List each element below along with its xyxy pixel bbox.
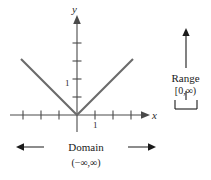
figure-container: y x 1 1 Range [0,∞) Domain (−∞,∞) [0, 0, 211, 180]
range-annotation-arrow [166, 28, 206, 110]
x-axis-label: x [152, 110, 157, 121]
coordinate-plot [0, 0, 160, 140]
x-tick-label-1: 1 [93, 121, 98, 130]
domain-interval: (−∞,∞) [34, 157, 138, 168]
domain-label: Domain [44, 141, 128, 153]
range-label: Range [160, 72, 211, 84]
y-axis-label: y [72, 4, 77, 15]
y-tick-label-1: 1 [65, 79, 70, 88]
range-interval: [0,∞) [160, 85, 211, 96]
